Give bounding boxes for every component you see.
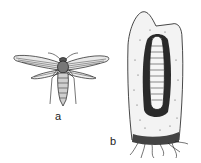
root-section-drawing — [128, 12, 188, 158]
moth-drawing — [14, 53, 109, 106]
illustration-canvas — [0, 0, 201, 163]
scientific-illustration: a b — [0, 0, 201, 163]
panel-label-a: a — [55, 111, 61, 122]
panel-label-b: b — [110, 136, 116, 147]
